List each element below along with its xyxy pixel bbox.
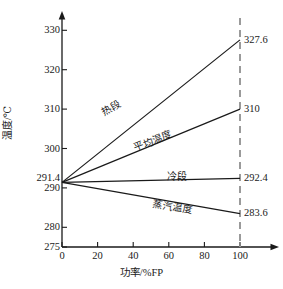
x-tick-label-100: 100 xyxy=(232,251,248,262)
x-axis-title: 功率/%FP xyxy=(0,267,283,278)
y-tick-label-310: 310 xyxy=(44,104,60,115)
y-tick-label-290: 290 xyxy=(44,183,60,194)
x-tick-label-0: 0 xyxy=(59,251,64,262)
y-axis-title: 温度/℃ xyxy=(3,93,13,153)
y-tick-label-330: 330 xyxy=(44,25,60,36)
series-line-cold-section xyxy=(62,178,240,182)
y-axis-arrow xyxy=(59,11,66,20)
end-value-hot-section: 327.6 xyxy=(244,35,268,46)
y-tick-label-275: 275 xyxy=(44,242,60,253)
plot-area: 330 320 310 300 291.4 290 280 275 0 20 4… xyxy=(0,0,283,289)
y-tick-marks xyxy=(62,30,67,247)
x-tick-label-20: 20 xyxy=(92,251,103,262)
series-label-cold-section: 冷段 xyxy=(167,172,187,182)
x-tick-marks xyxy=(62,242,240,247)
x-tick-label-80: 80 xyxy=(199,251,210,262)
end-value-steam-temperature: 283.6 xyxy=(244,208,268,219)
end-value-average-temperature: 310 xyxy=(244,104,260,115)
end-value-cold-section: 292.4 xyxy=(244,173,268,184)
series-line-hot-section xyxy=(62,40,240,183)
x-tick-label-40: 40 xyxy=(128,251,139,262)
x-tick-label-60: 60 xyxy=(164,251,175,262)
y-tick-label-300: 300 xyxy=(44,144,60,155)
y-tick-label-280: 280 xyxy=(44,222,60,233)
x-axis-arrow xyxy=(271,244,280,251)
y-tick-label-320: 320 xyxy=(44,65,60,76)
chart-figure: 330 320 310 300 291.4 290 280 275 0 20 4… xyxy=(0,0,283,289)
